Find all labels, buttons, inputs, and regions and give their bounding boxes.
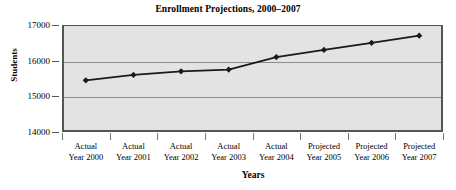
x-axis-tick-label-line: Year 2001: [116, 152, 151, 163]
x-axis-tick-label-line: Actual: [164, 141, 199, 152]
x-axis-tick-label-line: Year 2006: [354, 152, 389, 163]
x-axis-title: Years: [62, 170, 444, 180]
x-axis-tick-label-line: Projected: [402, 141, 437, 152]
x-axis-tick-label-line: Year 2007: [402, 152, 437, 163]
x-axis-tick-label: ActualYear 2002: [164, 141, 199, 162]
x-axis-tick-mark: [443, 133, 444, 140]
x-axis-tick-label: ActualYear 2003: [211, 141, 246, 162]
x-axis-tick-mark: [395, 133, 396, 140]
x-axis-tick-label-line: Year 2000: [68, 152, 103, 163]
x-axis-tick-label: ActualYear 2004: [259, 141, 294, 162]
x-axis-tick-label-line: Year 2004: [259, 152, 294, 163]
x-axis-tick-mark: [300, 133, 301, 140]
x-axis-tick-mark: [348, 133, 349, 140]
x-axis-tick-mark: [62, 133, 63, 140]
x-axis-tick-mark: [253, 133, 254, 140]
x-axis-tick-mark: [205, 133, 206, 140]
x-axis-tick-label-line: Actual: [259, 141, 294, 152]
chart-figure: Enrollment Projections, 2000–2007 Studen…: [0, 0, 456, 190]
x-axis-tick-label-line: Projected: [307, 141, 342, 152]
x-axis-tick-label: ProjectedYear 2007: [402, 141, 437, 162]
x-axis-tick-label-line: Year 2003: [211, 152, 246, 163]
x-axis-tick-label-line: Actual: [68, 141, 103, 152]
x-axis-tick-label-line: Actual: [211, 141, 246, 152]
x-axis-tick-label: ProjectedYear 2006: [354, 141, 389, 162]
x-axis-tick-label: ActualYear 2000: [68, 141, 103, 162]
x-axis-tick-label-line: Year 2005: [307, 152, 342, 163]
x-axis-tick-label: ActualYear 2001: [116, 141, 151, 162]
x-axis-tick-label-line: Actual: [116, 141, 151, 152]
x-axis-tick-label-line: Projected: [354, 141, 389, 152]
x-axis-tick-label: ProjectedYear 2005: [307, 141, 342, 162]
x-axis-tick-label-line: Year 2002: [164, 152, 199, 163]
x-axis-tick-mark: [157, 133, 158, 140]
x-axis-tick-labels: ActualYear 2000ActualYear 2001ActualYear…: [0, 0, 456, 190]
x-axis-tick-mark: [110, 133, 111, 140]
